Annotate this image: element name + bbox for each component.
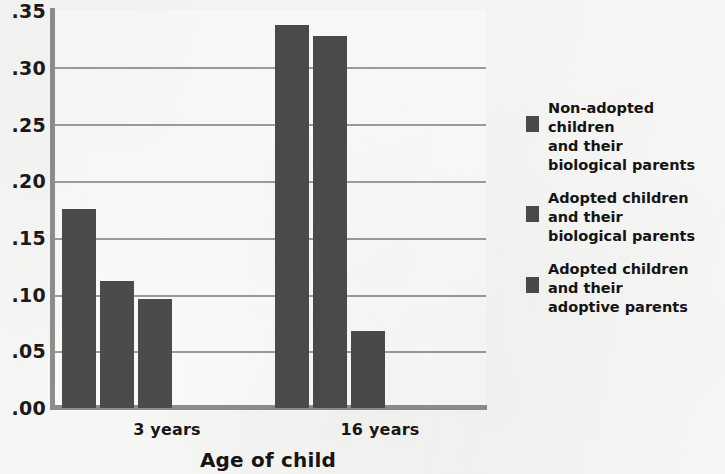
bar-16-years-series-3 <box>351 331 385 408</box>
bar-16-years-series-1 <box>275 25 309 408</box>
legend-swatch-icon-1 <box>526 206 539 222</box>
legend-label-1: Adopted children and their biological pa… <box>548 190 695 244</box>
x-tick-label-16-years: 16 years <box>325 420 435 439</box>
legend-swatch-icon-2 <box>526 277 539 293</box>
bars-layer <box>0 10 436 408</box>
bar-3-years-series-3 <box>138 299 172 408</box>
legend-item-2: Adopted children and their adoptive pare… <box>526 259 722 316</box>
legend-swatch-icon-0 <box>526 116 539 132</box>
x-tick-label-3-years: 3 years <box>112 420 222 439</box>
legend-label-0: Non-adopted children and their biologica… <box>548 100 695 173</box>
bar-chart-figure: .35 .30 .25 .20 .15 .10 .05 .00 3 years … <box>0 0 725 474</box>
bar-3-years-series-2 <box>100 281 134 408</box>
bar-16-years-series-2 <box>313 36 347 408</box>
legend-item-0: Non-adopted children and their biologica… <box>526 98 722 174</box>
legend: Non-adopted children and their biologica… <box>526 98 722 330</box>
bar-3-years-series-1 <box>62 209 96 408</box>
x-axis-title: Age of child <box>50 448 486 472</box>
legend-label-2: Adopted children and their adoptive pare… <box>548 261 689 315</box>
legend-item-1: Adopted children and their biological pa… <box>526 188 722 245</box>
